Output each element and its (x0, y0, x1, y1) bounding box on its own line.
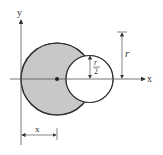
centroid-distance-label: x (35, 124, 40, 134)
outer-radius-label: r (125, 47, 130, 59)
y-axis-label: y (17, 7, 22, 18)
centroid-dot (55, 77, 59, 81)
x-axis-label: x (147, 73, 152, 84)
hole-radius-denominator: 2 (94, 67, 98, 76)
composite-circle-figure: y x r r 2 x (0, 0, 163, 155)
centroid-distance-dimension: x (22, 124, 57, 140)
outer-radius-dimension: r (117, 32, 130, 78)
